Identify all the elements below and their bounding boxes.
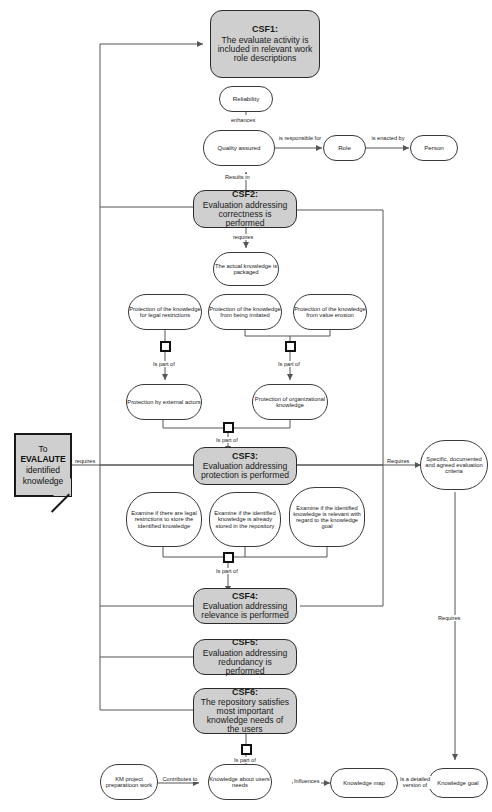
edge-label-contributes-to: Contributes to — [161, 776, 199, 782]
csf5-title: CSF5: — [232, 638, 258, 648]
goal-note-line1: To — [39, 444, 48, 455]
protection-value-label: Protection of the knowledge from value e… — [294, 306, 366, 318]
csf3-title: CSF3: — [232, 452, 258, 462]
edge-label-requires-csf2: requires — [232, 234, 254, 240]
csf6-title: CSF6: — [232, 688, 258, 698]
csf6-text: The repository satisfies most important … — [200, 698, 290, 734]
edge-label-is-part-of-3: Is part of — [215, 437, 239, 443]
examine-legal-label: Examine if there are legal restrictions … — [127, 510, 201, 528]
protection-legal-node[interactable]: Protection of the knowledge for legal re… — [128, 294, 202, 330]
csf4-node[interactable]: CSF4: Evaluation addressing relevance is… — [193, 588, 297, 624]
csf1-title: CSF1: — [252, 25, 278, 35]
knowledge-goal-label: Knowledge goal — [437, 780, 478, 786]
reliability-label: Reliability — [233, 96, 259, 103]
examine-legal-node[interactable]: Examine if there are legal restrictions … — [126, 492, 202, 547]
goal-note-line2: EVALAUTE — [20, 454, 65, 465]
edge-label-influences: Influences — [293, 778, 321, 784]
csf2-title: CSF2: — [232, 190, 258, 200]
edge-label-is-part-of-5: Is part of — [233, 757, 257, 763]
actual-knowledge-label: The actual knowledge is packaged — [214, 263, 278, 275]
edge-label-is-part-of-2: Is part of — [277, 361, 301, 367]
person-node[interactable]: Person — [410, 135, 458, 161]
junction-examine-merge — [223, 552, 234, 563]
knowledge-users-node[interactable]: Knowledge about users' needs — [208, 764, 272, 800]
role-node[interactable]: Role — [323, 135, 366, 161]
examine-stored-label: Examine if the identified knowledge is a… — [210, 510, 280, 528]
edge-label-requires-goal: requires — [74, 458, 96, 464]
knowledge-goal-node[interactable]: Knowledge goal — [428, 768, 488, 798]
protection-org-node[interactable]: Protection of organizational knowledge — [252, 384, 328, 420]
csf1-node[interactable]: CSF1: The evaluate activity is included … — [210, 10, 320, 78]
examine-relevant-label: Examine if the identified knowledge is r… — [290, 505, 364, 530]
csf4-title: CSF4: — [232, 592, 258, 602]
evaluation-criteria-label: Specific, documented and agreed evaluati… — [421, 456, 487, 474]
junction-protection-merge — [223, 422, 234, 433]
edge-label-is-part-of-4: Is part of — [215, 568, 239, 574]
edge-label-enhances: enhances — [230, 117, 256, 123]
csf2-node[interactable]: CSF2: Evaluation addressing correctness … — [193, 190, 297, 228]
quality-assured-label: Quality assured — [218, 145, 261, 152]
csf4-text: Evaluation addressing relevance is perfo… — [200, 602, 290, 620]
csf5-text: Evaluation addressing redundancy is perf… — [200, 649, 290, 676]
protection-legal-label: Protection of the knowledge for legal re… — [129, 306, 201, 318]
km-project-node[interactable]: KM project preparatioon work — [100, 764, 158, 800]
protection-external-label: Protection by external actors — [127, 399, 200, 405]
protection-imitated-label: Protection of the knowledge from being i… — [209, 306, 281, 318]
examine-relevant-node[interactable]: Examine if the identified knowledge is r… — [289, 487, 365, 547]
goal-note: To EVALAUTE identified knowledge — [14, 433, 72, 497]
csf3-text: Evaluation addressing protection is perf… — [200, 462, 290, 480]
actual-knowledge-node[interactable]: The actual knowledge is packaged — [213, 252, 279, 286]
csf2-text: Evaluation addressing correctness is per… — [200, 201, 290, 228]
role-label: Role — [338, 145, 351, 152]
junction-csf6-merge — [241, 744, 252, 755]
csf5-node[interactable]: CSF5: Evaluation addressing redundancy i… — [193, 639, 297, 675]
knowledge-map-node[interactable]: Knowledge map — [330, 768, 398, 798]
edge-label-results-in: Results in — [224, 174, 251, 180]
protection-external-node[interactable]: Protection by external actors — [126, 384, 202, 420]
examine-stored-node[interactable]: Examine if the identified knowledge is a… — [209, 492, 281, 547]
junction-protection-left — [160, 341, 171, 352]
evaluation-criteria-node[interactable]: Specific, documented and agreed evaluati… — [420, 440, 488, 490]
edge-label-is-enacted-by: is enacted by — [366, 135, 410, 141]
person-label: Person — [424, 145, 444, 152]
goal-note-line3: identified — [26, 465, 60, 476]
edge-label-is-part-of-1: Is part of — [152, 361, 176, 367]
km-project-label: KM project preparatioon work — [101, 776, 157, 788]
knowledge-map-label: Knowledge map — [343, 780, 385, 786]
protection-imitated-node[interactable]: Protection of the knowledge from being i… — [208, 294, 282, 330]
edge-label-is-responsible-for: is responsible for — [277, 135, 323, 141]
edge-label-requires-goal-node: Requires — [437, 615, 461, 621]
protection-org-label: Protection of organizational knowledge — [253, 396, 327, 408]
csf1-text: The evaluate activity is included in rel… — [217, 36, 313, 63]
csf3-node[interactable]: CSF3: Evaluation addressing protection i… — [193, 447, 297, 485]
edge-label-requires-criteria: Requires — [386, 458, 410, 464]
protection-value-node[interactable]: Protection of the knowledge from value e… — [293, 294, 367, 330]
junction-protection-right — [285, 341, 296, 352]
csf6-node[interactable]: CSF6: The repository satisfies most impo… — [193, 688, 297, 734]
quality-assured-node[interactable]: Quality assured — [203, 130, 275, 166]
edge-label-is-detailed-version-of: Is a detailed version of — [398, 776, 432, 789]
reliability-node[interactable]: Reliability — [219, 86, 273, 112]
knowledge-users-label: Knowledge about users' needs — [209, 776, 271, 788]
